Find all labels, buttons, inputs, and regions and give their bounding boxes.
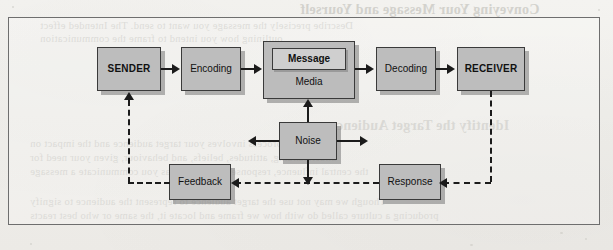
node-media[interactable]: Message Media bbox=[263, 41, 355, 99]
connector-noise-media bbox=[307, 106, 309, 122]
connector-receiver-down bbox=[490, 91, 492, 182]
arrowhead-noise-left bbox=[248, 136, 256, 146]
node-noise[interactable]: Noise bbox=[279, 122, 337, 160]
node-noise-label: Noise bbox=[295, 136, 321, 147]
figure-frame: SENDER Encoding Message Media Decoding R… bbox=[8, 17, 600, 225]
connector-feedback-left bbox=[128, 182, 170, 184]
node-encoding[interactable]: Encoding bbox=[181, 47, 241, 91]
arrowhead-noise-media bbox=[303, 99, 313, 107]
node-sender-label: SENDER bbox=[108, 64, 151, 75]
node-sender[interactable]: SENDER bbox=[97, 47, 161, 91]
node-decoding-label: Decoding bbox=[385, 64, 427, 75]
arrowhead-encoding-media bbox=[254, 64, 262, 74]
scan-speckle bbox=[30, 243, 32, 245]
connector-noise-right bbox=[337, 140, 361, 142]
connector-noise-down bbox=[307, 160, 309, 178]
connector-noise-left bbox=[255, 140, 279, 142]
arrowhead-into-response bbox=[439, 178, 447, 188]
connector-response-to-feedback bbox=[235, 182, 379, 184]
arrowhead-into-feedback bbox=[231, 178, 239, 188]
scan-speckle bbox=[560, 232, 563, 234]
connector-encoding-media bbox=[241, 68, 254, 70]
arrowhead-decoding-receiver bbox=[447, 64, 455, 74]
connector-receiver-to-response bbox=[443, 182, 491, 184]
scan-speckle bbox=[470, 244, 473, 246]
node-response[interactable]: Response bbox=[379, 164, 441, 200]
arrowhead-noise-right bbox=[360, 136, 368, 146]
node-feedback-label: Feedback bbox=[178, 177, 222, 188]
scan-speckle bbox=[585, 238, 587, 240]
node-response-label: Response bbox=[387, 177, 432, 188]
node-message-label: Message bbox=[288, 54, 330, 65]
connector-feedback-up-to-sender bbox=[128, 100, 130, 183]
scan-speckle bbox=[12, 6, 14, 8]
node-feedback[interactable]: Feedback bbox=[169, 164, 231, 200]
node-receiver[interactable]: RECEIVER bbox=[457, 47, 525, 91]
node-encoding-label: Encoding bbox=[190, 64, 232, 75]
node-media-label: Media bbox=[295, 77, 322, 88]
node-decoding[interactable]: Decoding bbox=[376, 47, 436, 91]
node-message[interactable]: Message bbox=[272, 48, 346, 70]
node-receiver-label: RECEIVER bbox=[465, 64, 518, 75]
diagram-canvas: SENDER Encoding Message Media Decoding R… bbox=[9, 18, 599, 224]
arrowhead-into-sender bbox=[124, 92, 134, 100]
arrowhead-media-decoding bbox=[366, 64, 374, 74]
arrowhead-sender-encoding bbox=[172, 64, 180, 74]
scan-speckle bbox=[598, 9, 600, 11]
